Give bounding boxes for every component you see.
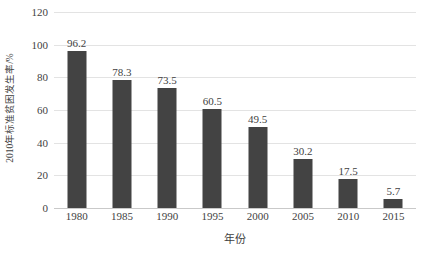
- x-axis-tick-label: 1995: [201, 210, 223, 222]
- x-axis-tick-label: 1990: [156, 210, 178, 222]
- bar-value-label: 73.5: [158, 74, 177, 86]
- bar-value-label: 96.2: [67, 37, 86, 49]
- bar-group: 60.5: [190, 12, 235, 208]
- x-axis-tick-label: 1980: [66, 210, 88, 222]
- y-axis-tick-label: 120: [32, 6, 49, 18]
- bar-chart: 2010年标准贫困发生率/% 020406080100120 96.278.37…: [0, 0, 426, 255]
- y-axis-tick-label: 20: [37, 169, 48, 181]
- y-axis-tick-label: 80: [37, 71, 48, 83]
- x-axis-title: 年份: [54, 230, 416, 246]
- bar-group: 30.2: [280, 12, 325, 208]
- bar-group: 49.5: [235, 12, 280, 208]
- bar: [339, 179, 358, 208]
- bar-group: 73.5: [145, 12, 190, 208]
- bar: [203, 109, 222, 208]
- bar-value-label: 60.5: [203, 95, 222, 107]
- y-axis-tick-label: 40: [37, 137, 48, 149]
- bar-value-label: 78.3: [112, 66, 131, 78]
- bar: [248, 127, 267, 208]
- bar-value-label: 30.2: [293, 145, 312, 157]
- x-axis-tick-label: 2015: [382, 210, 404, 222]
- bar-value-label: 5.7: [387, 185, 401, 197]
- gridline: [54, 208, 416, 209]
- bar: [158, 88, 177, 208]
- bar: [67, 51, 86, 208]
- x-axis-tick-label: 1985: [111, 210, 133, 222]
- bar-value-label: 49.5: [248, 113, 267, 125]
- x-axis-tick-labels: 19801985199019952000200520102015: [54, 210, 416, 228]
- y-axis-tick-label: 60: [37, 104, 48, 116]
- bar-group: 96.2: [54, 12, 99, 208]
- bar: [293, 159, 312, 208]
- y-axis-tick-label: 0: [43, 202, 49, 214]
- y-axis-tick-labels: 020406080100120: [18, 0, 52, 215]
- x-axis-tick-label: 2000: [247, 210, 269, 222]
- bar-value-label: 17.5: [339, 165, 358, 177]
- x-axis-tick-label: 2010: [337, 210, 359, 222]
- bar: [112, 80, 131, 208]
- y-axis-title-label: 2010年标准贫困发生率/%: [2, 53, 16, 163]
- bar-group: 78.3: [99, 12, 144, 208]
- x-axis-tick-label: 2005: [292, 210, 314, 222]
- bars-layer: 96.278.373.560.549.530.217.55.7: [54, 12, 416, 208]
- bar-group: 17.5: [326, 12, 371, 208]
- plot-area: 96.278.373.560.549.530.217.55.7: [54, 12, 416, 208]
- bar-group: 5.7: [371, 12, 416, 208]
- bar: [384, 199, 403, 208]
- y-axis-tick-label: 100: [32, 39, 49, 51]
- y-axis-title: 2010年标准贫困发生率/%: [0, 0, 18, 215]
